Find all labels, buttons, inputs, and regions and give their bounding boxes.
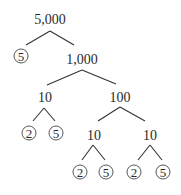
edge-10c-5	[150, 145, 162, 160]
edge-10-5	[44, 108, 55, 121]
node-10-left: 10	[87, 128, 101, 143]
edge-10-2	[33, 108, 44, 121]
edge-10b-5	[93, 145, 105, 160]
svg-text:5: 5	[53, 126, 60, 141]
svg-text:5: 5	[103, 165, 110, 180]
edge-5000-1000	[50, 31, 74, 45]
node-10-right: 10	[143, 128, 157, 143]
node-100: 100	[110, 90, 131, 105]
edge-1000-100	[82, 70, 116, 84]
svg-text:2: 2	[131, 165, 138, 180]
edge-5000-5	[26, 31, 50, 45]
svg-text:2: 2	[77, 165, 84, 180]
node-5000: 5,000	[34, 12, 66, 27]
node-1000: 1,000	[66, 52, 98, 67]
edge-100-10-left	[98, 107, 120, 121]
prime-leaf-2: 2	[22, 126, 36, 141]
prime-leaf-5: 5	[99, 165, 113, 180]
svg-text:5: 5	[18, 49, 25, 64]
factor-tree-diagram: 5,000 1,000 10 100 10 10 5 2 5 2 5 2 5	[0, 0, 181, 195]
edge-10b-2	[82, 145, 93, 160]
prime-leaf-2: 2	[73, 165, 87, 180]
svg-text:2: 2	[26, 126, 33, 141]
edge-1000-10	[47, 70, 82, 85]
node-10: 10	[38, 90, 52, 105]
svg-text:5: 5	[160, 165, 167, 180]
prime-leaf-5: 5	[49, 126, 63, 141]
edge-100-10-right	[120, 107, 145, 121]
prime-leaf-5: 5	[156, 165, 170, 180]
prime-leaf-5: 5	[14, 49, 28, 64]
edge-10c-2	[138, 145, 150, 160]
prime-leaf-2: 2	[127, 165, 141, 180]
